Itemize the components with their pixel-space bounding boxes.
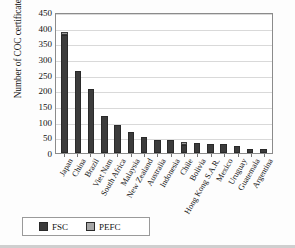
y-axis-tick-labels: 450400350300250200150100500 xyxy=(26,12,52,154)
y-tick-label: 150 xyxy=(39,102,53,112)
bar-segment-fsc xyxy=(154,140,161,153)
chart-legend: FSC PEFC xyxy=(22,217,150,236)
y-tick-label: 350 xyxy=(39,39,53,49)
y-tick-label: 300 xyxy=(39,55,53,65)
bar-segment-fsc xyxy=(234,146,241,153)
bar-segment-fsc xyxy=(207,144,214,153)
bar-column[interactable] xyxy=(154,14,161,153)
bar-column[interactable] xyxy=(260,14,267,153)
bar-column[interactable] xyxy=(141,14,148,153)
y-tick-label: 250 xyxy=(39,71,53,81)
bar-column[interactable] xyxy=(194,14,201,153)
bar-column[interactable] xyxy=(114,14,121,153)
bar-segment-fsc xyxy=(88,89,95,153)
bar-column[interactable] xyxy=(220,14,227,153)
bar-column[interactable] xyxy=(207,14,214,153)
bar-segment-fsc xyxy=(141,137,148,153)
y-tick-label: 50 xyxy=(43,133,52,143)
legend-item-pefc: PEFC xyxy=(86,222,121,232)
fsc-swatch-icon xyxy=(39,222,48,231)
bar-column[interactable] xyxy=(247,14,254,153)
legend-item-fsc: FSC xyxy=(39,222,68,232)
bar-segment-fsc xyxy=(61,35,68,153)
bar-segment-fsc xyxy=(247,149,254,153)
plot-area xyxy=(55,13,273,154)
bar-segment-fsc xyxy=(128,132,135,153)
bar-segment-fsc xyxy=(220,144,227,153)
bar-segment-fsc xyxy=(75,71,82,153)
bar-column[interactable] xyxy=(101,14,108,153)
bar-segment-fsc xyxy=(260,149,267,153)
chart-figure: Number of COC certificates 4504003503002… xyxy=(0,0,295,248)
bar-column[interactable] xyxy=(234,14,241,153)
y-tick-label: 200 xyxy=(39,86,53,96)
bar-column[interactable] xyxy=(88,14,95,153)
bar-segment-fsc xyxy=(167,140,174,153)
y-tick-label: 400 xyxy=(39,24,53,34)
y-axis-title: Number of COC certificates xyxy=(13,0,23,117)
bar-segment-fsc xyxy=(181,145,188,153)
pefc-swatch-icon xyxy=(86,222,95,231)
bar-segment-fsc xyxy=(114,125,121,153)
bar-column[interactable] xyxy=(75,14,82,153)
bar-column[interactable] xyxy=(181,14,188,153)
bar-column[interactable] xyxy=(61,14,68,153)
bar-column[interactable] xyxy=(128,14,135,153)
y-tick-label: 450 xyxy=(39,8,53,18)
y-tick-label: 100 xyxy=(39,118,53,128)
bar-column[interactable] xyxy=(167,14,174,153)
x-axis-category-labels: JapanChinaBrazilViet NamSouth AfricaMala… xyxy=(55,157,273,213)
bar-segment-fsc xyxy=(101,116,108,153)
y-tick-label: 0 xyxy=(48,149,53,159)
bar-segment-fsc xyxy=(194,143,201,153)
legend-label-fsc: FSC xyxy=(52,222,68,232)
bar-series-group xyxy=(56,14,272,153)
legend-label-pefc: PEFC xyxy=(99,222,121,232)
